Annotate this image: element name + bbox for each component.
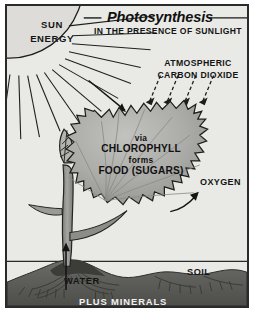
co2-line-2: CARBON DIOXIDE <box>145 70 249 82</box>
page-subtitle: IN THE PRESENCE OF SUNLIGHT <box>83 26 249 36</box>
poster-frame: SUN ENERGY Photosynthesis IN THE PRESENC… <box>5 4 249 308</box>
soil-label: SOIL <box>187 268 210 278</box>
leaf-caption: via CHLOROPHYLL forms FOOD (SUGARS) <box>83 132 199 177</box>
oxygen-label: OXYGEN <box>200 178 241 187</box>
leaf-caption-chlorophyll: CHLOROPHYLL <box>83 143 199 154</box>
photosynthesis-poster: SUN ENERGY Photosynthesis IN THE PRESENC… <box>0 0 254 313</box>
sunlight-arrow-icon <box>89 81 126 113</box>
leaf-caption-forms: forms <box>83 155 199 165</box>
leaf-caption-via: via <box>83 133 199 143</box>
carbon-dioxide-label: ATMOSPHERIC CARBON DIOXIDE <box>145 58 249 81</box>
sun-energy-line-2: ENERGY <box>21 32 83 46</box>
water-label: WATER <box>64 276 100 286</box>
sun-energy-label: SUN ENERGY <box>21 18 83 46</box>
plus-minerals-label: PLUS MINERALS <box>79 297 167 307</box>
leaf-caption-food: FOOD (SUGARS) <box>83 165 199 176</box>
page-title: Photosynthesis <box>106 8 213 26</box>
co2-line-1: ATMOSPHERIC <box>145 58 249 70</box>
sun-energy-line-1: SUN <box>21 18 83 32</box>
oxygen-arrow-icon <box>170 192 199 212</box>
